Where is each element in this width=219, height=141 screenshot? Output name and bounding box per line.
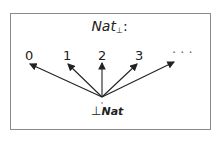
node-3: 3 xyxy=(135,48,143,63)
node-2: 2 xyxy=(98,48,106,63)
arrow-to-1 xyxy=(68,64,102,97)
node-0: 0 xyxy=(25,48,33,63)
node-ellipsis: · · · xyxy=(172,45,193,60)
arrow-to-ellipsis xyxy=(102,62,174,97)
arrows xyxy=(0,0,219,141)
arrow-to-0 xyxy=(30,64,102,97)
bottom-node: ⊥Nat xyxy=(91,104,123,118)
bottom-symbol: ⊥ xyxy=(91,104,101,118)
node-1: 1 xyxy=(63,48,71,63)
arrow-to-3 xyxy=(102,64,137,97)
bottom-name: Nat xyxy=(101,105,123,118)
